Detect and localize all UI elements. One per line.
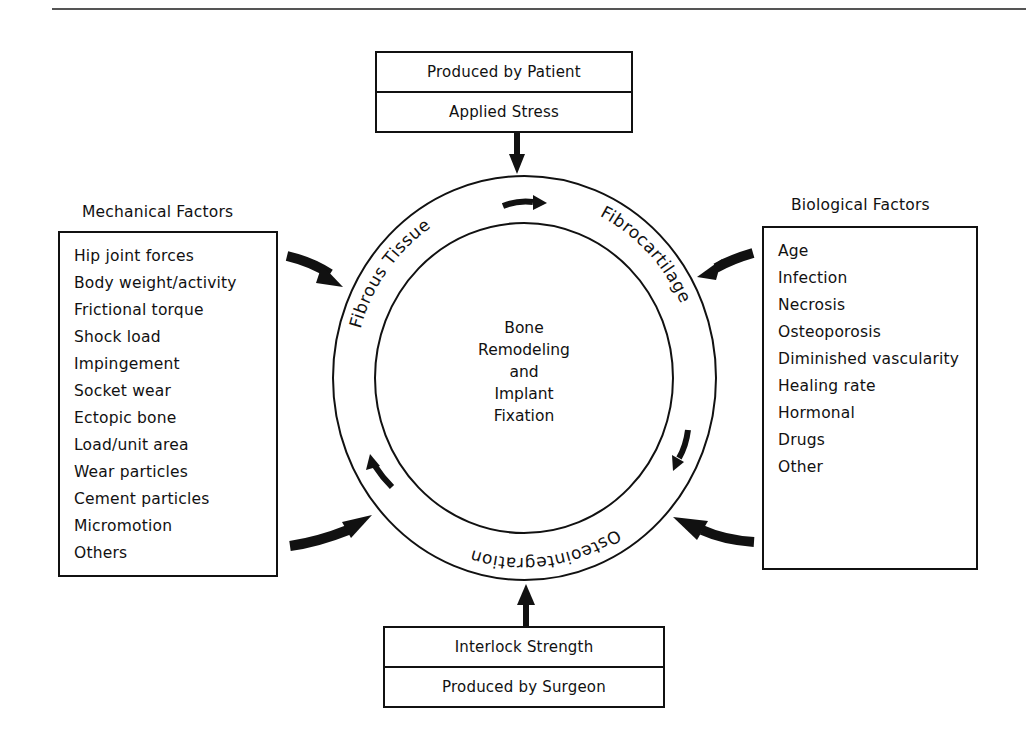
- osteointegration-ring-label: Osteointegration: [467, 526, 625, 574]
- applied-stress-arrow-icon: [509, 131, 525, 174]
- center-line: Remodeling: [424, 339, 624, 361]
- center-line: Bone: [424, 317, 624, 339]
- cycle-arrow-left-icon: [375, 466, 392, 487]
- biological-arrow-upper-icon: [697, 253, 753, 280]
- center-line: Implant: [424, 383, 624, 405]
- interlock-strength-arrow-icon: [517, 584, 535, 626]
- mechanical-arrow-upper-icon: [287, 256, 343, 287]
- cycle-arrow-top-icon: [503, 202, 533, 207]
- cycle-arrowhead-top-icon: [533, 195, 547, 210]
- mechanical-arrow-lower-icon: [290, 515, 372, 546]
- cycle-arrow-right-icon: [679, 430, 688, 458]
- center-line: Fixation: [424, 405, 624, 427]
- center-line: and: [424, 361, 624, 383]
- center-label: Bone Remodeling and Implant Fixation: [424, 317, 624, 427]
- biological-arrow-lower-icon: [673, 517, 754, 542]
